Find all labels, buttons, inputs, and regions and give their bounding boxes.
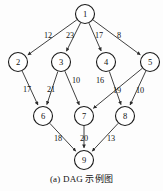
dag-figure: 123456789 1223178172110161910182013 (a) …: [0, 0, 163, 191]
node-2[interactable]: 2: [9, 53, 28, 72]
edge-weight-5-8: 10: [136, 86, 144, 95]
dag-graph: 123456789 1223178172110161910182013: [0, 0, 163, 172]
edge-weight-8-9: 13: [107, 134, 115, 143]
node-8[interactable]: 8: [116, 107, 135, 126]
figure-caption: (a) DAG 示例图: [0, 172, 163, 185]
edge-weight-1-5: 8: [117, 31, 121, 40]
node-label-2: 2: [16, 57, 20, 67]
edge-weight-1-4: 17: [95, 31, 103, 40]
edge-weight-7-9: 20: [80, 134, 88, 143]
node-3[interactable]: 3: [52, 53, 71, 72]
edge-weight-6-9: 18: [54, 134, 62, 143]
edge-weight-1-2: 12: [44, 31, 52, 40]
edge-weight-1-3: 23: [66, 31, 74, 40]
edge-weight-5-7: 19: [113, 86, 121, 95]
node-1[interactable]: 1: [76, 5, 95, 24]
node-5[interactable]: 5: [141, 53, 160, 72]
node-4[interactable]: 4: [97, 53, 116, 72]
node-label-6: 6: [41, 111, 45, 121]
edge-weight-3-7: 10: [72, 76, 80, 85]
node-9[interactable]: 9: [75, 151, 94, 170]
edge-weight-2-6: 17: [23, 85, 31, 94]
node-label-1: 1: [83, 9, 87, 19]
edges-layer: [22, 20, 146, 151]
node-label-9: 9: [82, 155, 86, 165]
node-7[interactable]: 7: [75, 107, 94, 126]
node-label-3: 3: [59, 57, 63, 67]
node-6[interactable]: 6: [34, 107, 53, 126]
node-label-8: 8: [123, 111, 127, 121]
edge-weight-3-6: 21: [47, 85, 55, 94]
edge-weight-4-8: 16: [96, 76, 104, 85]
node-label-7: 7: [82, 111, 86, 121]
node-label-5: 5: [148, 57, 152, 67]
